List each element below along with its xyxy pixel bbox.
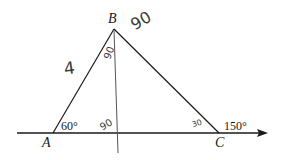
vertex-label-a: A xyxy=(42,136,51,150)
side-BC xyxy=(114,29,219,133)
angle-a-label: 60° xyxy=(61,120,78,132)
vertex-label-b: B xyxy=(108,12,117,26)
vertex-label-c: C xyxy=(215,136,224,150)
triangle-diagram: B A C 60° 150° 4 90 90 90 30 xyxy=(0,0,282,160)
exterior-angle-c-label: 150° xyxy=(224,120,247,132)
handwritten-side-ab: 4 xyxy=(63,59,76,77)
